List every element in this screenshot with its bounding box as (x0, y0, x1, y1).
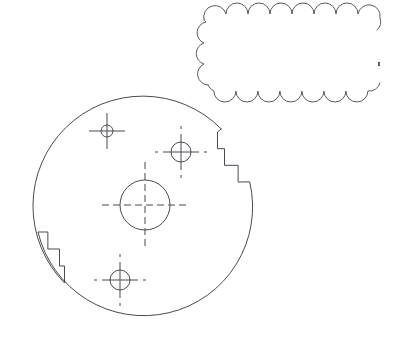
revision-cloud-group[interactable] (196, 3, 380, 102)
hole-group (89, 113, 207, 306)
flange-plate-outline[interactable] (33, 96, 253, 316)
drawing-canvas (0, 0, 399, 343)
center-bore-group[interactable] (102, 162, 188, 248)
hole-upper-left-group[interactable] (89, 113, 125, 149)
flange-plate-outline-group[interactable] (33, 96, 253, 316)
revision-cloud-detached-tick (378, 62, 380, 66)
hole-upper-right-group[interactable] (155, 126, 207, 178)
cad-drawing (0, 0, 399, 343)
revision-cloud[interactable] (196, 3, 380, 102)
hole-bottom-group[interactable] (94, 254, 146, 306)
